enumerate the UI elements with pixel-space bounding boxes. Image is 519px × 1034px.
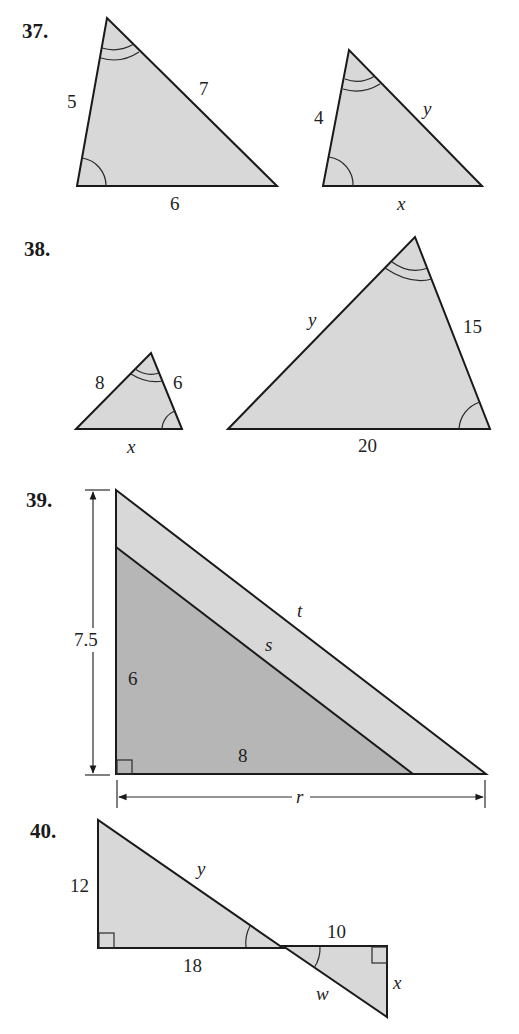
hypotenuse-label: y: [195, 858, 206, 879]
height-label: 7.5: [74, 629, 98, 650]
triangle-37a: 5 7 6: [67, 18, 277, 214]
side-label-left: y: [306, 309, 317, 330]
outer-hypotenuse-label: t: [297, 600, 303, 621]
exercise-figures: 37. 5 7 6 4 y x 38.: [0, 0, 519, 1034]
right-right-triangle: 10 x w: [283, 921, 402, 1017]
side-label-left: 4: [314, 107, 324, 128]
inner-horizontal-leg-label: 8: [238, 745, 248, 766]
base-label: r: [296, 786, 304, 807]
side-label-right: 15: [463, 316, 482, 337]
base-label: 18: [183, 955, 202, 976]
problem-39: 39. 7.5 r 6 8 s t: [26, 488, 486, 808]
problem-37: 37. 5 7 6 4 y x: [22, 18, 482, 214]
side-label-base: x: [126, 436, 136, 457]
side-label-right: 7: [199, 78, 209, 99]
vertical-leg-label: 12: [70, 875, 89, 896]
side-label-left: 5: [67, 91, 77, 112]
problem-number: 40.: [30, 819, 56, 843]
triangle-37b: 4 y x: [314, 50, 482, 214]
hypotenuse-label: w: [316, 983, 329, 1004]
problem-38: 38. 8 6 x y 15 20: [24, 237, 490, 457]
side-label-base: 6: [170, 193, 180, 214]
vertical-leg-label: x: [392, 972, 402, 993]
left-right-triangle: 12 18 y: [70, 820, 283, 976]
height-dimension: 7.5: [74, 490, 110, 775]
triangle-38b: y 15 20: [228, 237, 490, 456]
problem-40: 40. 12 18 y 10 x w: [30, 819, 402, 1017]
inner-hypotenuse-label: s: [265, 634, 272, 655]
side-label-left: 8: [95, 372, 105, 393]
side-label-base: 20: [358, 435, 377, 456]
problem-number: 38.: [24, 237, 50, 261]
triangle-38a: 8 6 x: [76, 353, 183, 457]
base-dimension: r: [117, 780, 485, 808]
top-leg-label: 10: [327, 921, 346, 942]
inner-vertical-leg-label: 6: [128, 668, 138, 689]
side-label-base: x: [396, 193, 406, 214]
side-label-right: y: [421, 98, 432, 119]
problem-number: 39.: [26, 488, 52, 512]
problem-number: 37.: [22, 19, 48, 43]
side-label-right: 6: [173, 372, 183, 393]
